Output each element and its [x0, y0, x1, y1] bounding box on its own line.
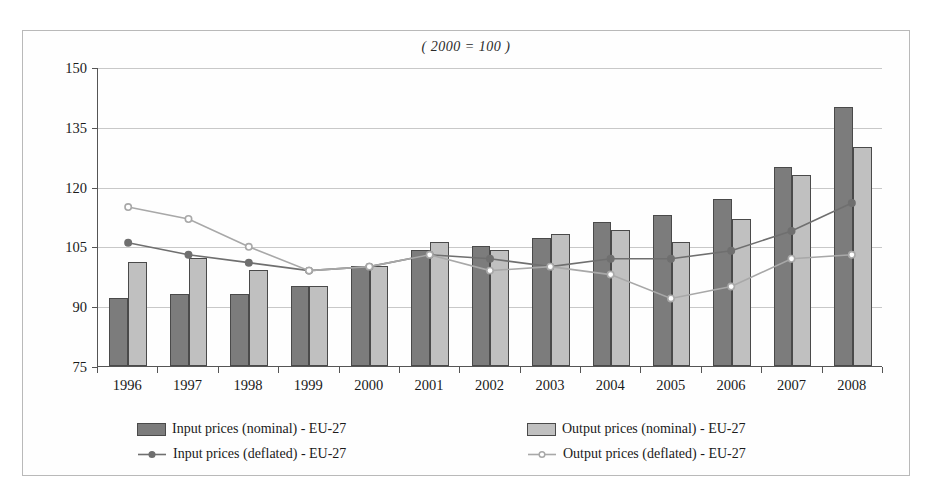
- data-point-marker: [306, 267, 312, 273]
- y-tick-label: 120: [43, 179, 87, 196]
- x-tick-mark: [278, 367, 279, 373]
- x-tick-mark: [580, 367, 581, 373]
- x-tick-label: 2007: [777, 377, 806, 394]
- x-tick-label: 1997: [173, 377, 202, 394]
- chart-legend: Input prices (nominal) - EU-27Output pri…: [97, 419, 887, 471]
- data-point-marker: [125, 240, 131, 246]
- data-point-marker: [426, 252, 432, 258]
- data-point-marker: [849, 252, 855, 258]
- data-point-marker: [185, 252, 191, 258]
- data-point-marker: [487, 267, 493, 273]
- chart-title: ( 2000 = 100 ): [23, 39, 909, 55]
- y-axis-labels: 7590105120135150: [41, 68, 87, 367]
- x-tick-mark: [882, 367, 883, 373]
- legend-swatch-icon: [527, 423, 556, 436]
- x-tick-mark: [640, 367, 641, 373]
- y-tick-label: 150: [43, 60, 87, 77]
- x-tick-mark: [701, 367, 702, 373]
- legend-label: Input prices (deflated) - EU-27: [173, 446, 346, 462]
- y-tick-label: 105: [43, 239, 87, 256]
- x-tick-mark: [761, 367, 762, 373]
- legend-entry[interactable]: Input prices (deflated) - EU-27: [137, 446, 346, 462]
- x-tick-mark: [822, 367, 823, 373]
- x-tick-mark: [459, 367, 460, 373]
- data-point-marker: [366, 263, 372, 269]
- x-tick-label: 2008: [837, 377, 866, 394]
- data-point-marker: [668, 256, 674, 262]
- x-tick-label: 2001: [415, 377, 444, 394]
- legend-swatch-icon: [137, 423, 166, 436]
- y-tick-label: 90: [43, 299, 87, 316]
- y-tick-label: 75: [43, 359, 87, 376]
- x-tick-label: 1998: [233, 377, 262, 394]
- x-tick-mark: [339, 367, 340, 373]
- x-tick-mark: [520, 367, 521, 373]
- x-tick-mark: [97, 367, 98, 373]
- data-point-marker: [246, 259, 252, 265]
- data-point-marker: [125, 204, 131, 210]
- data-point-marker: [728, 283, 734, 289]
- line-path: [128, 207, 852, 298]
- data-point-marker: [788, 228, 794, 234]
- chart-figure: ( 2000 = 100 ) 7590105120135150 19961997…: [22, 30, 910, 476]
- legend-label: Input prices (nominal) - EU-27: [172, 421, 346, 437]
- x-axis-labels: 1996199719981999200020012002200320042005…: [97, 367, 882, 407]
- data-point-marker: [607, 271, 613, 277]
- data-point-marker: [547, 263, 553, 269]
- x-tick-label: 2004: [596, 377, 625, 394]
- data-point-marker: [668, 295, 674, 301]
- legend-label: Output prices (nominal) - EU-27: [562, 421, 746, 437]
- data-point-marker: [487, 256, 493, 262]
- x-tick-label: 2003: [535, 377, 564, 394]
- x-tick-label: 2006: [717, 377, 746, 394]
- x-tick-label: 2005: [656, 377, 685, 394]
- legend-line-marker-icon: [527, 449, 557, 460]
- data-point-marker: [728, 248, 734, 254]
- legend-line-marker-icon: [137, 449, 167, 460]
- legend-entry[interactable]: Input prices (nominal) - EU-27: [137, 421, 346, 437]
- data-point-marker: [607, 256, 613, 262]
- y-tick-label: 135: [43, 119, 87, 136]
- data-point-marker: [788, 256, 794, 262]
- x-tick-label: 1999: [294, 377, 323, 394]
- data-point-marker: [185, 216, 191, 222]
- data-point-marker: [849, 200, 855, 206]
- legend-label: Output prices (deflated) - EU-27: [563, 446, 746, 462]
- legend-entry[interactable]: Output prices (deflated) - EU-27: [527, 446, 746, 462]
- x-tick-mark: [218, 367, 219, 373]
- legend-entry[interactable]: Output prices (nominal) - EU-27: [527, 421, 746, 437]
- plot-area: [97, 68, 882, 367]
- x-tick-mark: [157, 367, 158, 373]
- x-tick-label: 1996: [113, 377, 142, 394]
- line-series-container: [98, 68, 882, 366]
- x-tick-label: 2000: [354, 377, 383, 394]
- x-tick-label: 2002: [475, 377, 504, 394]
- data-point-marker: [246, 244, 252, 250]
- x-tick-mark: [399, 367, 400, 373]
